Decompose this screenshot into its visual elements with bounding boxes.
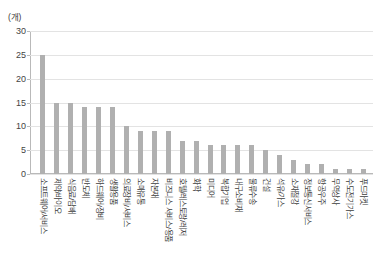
bar-slot — [217, 31, 231, 174]
bar-slot — [133, 31, 147, 174]
x-label-slot: 항공우주 — [314, 176, 328, 271]
bar-slot — [120, 31, 134, 174]
y-axis-unit-label: (개) — [8, 10, 21, 22]
x-tick-label: 항공우주 — [317, 178, 325, 205]
bar-slot — [92, 31, 106, 174]
x-tick-label: 반도체 — [81, 178, 89, 198]
x-tick-label: 복합기업 — [220, 178, 228, 205]
x-label-slot: 소재철강 — [287, 176, 301, 271]
bar-chart: (개) 051015202530 소프트웨어/서비스제약/바이오식음료/담배반도… — [0, 0, 379, 271]
gridline — [30, 174, 373, 175]
x-label-slot: 자본재 — [147, 176, 161, 271]
bar — [277, 155, 282, 174]
x-tick-label: 소재철강 — [290, 178, 298, 205]
y-tick-mark — [27, 174, 30, 175]
x-label-slot: 식음료/담배 — [64, 176, 78, 271]
bar-slot — [175, 31, 189, 174]
y-tick-label: 10 — [16, 122, 26, 131]
bar — [110, 107, 115, 174]
x-label-slot: 화학 — [189, 176, 203, 271]
bar-series — [30, 31, 373, 174]
bar-slot — [203, 31, 217, 174]
bar — [40, 55, 45, 174]
bar-slot — [231, 31, 245, 174]
x-tick-label: 미디어 — [206, 178, 214, 198]
x-label-slot: 푸드마켓 — [356, 176, 370, 271]
x-label-slot: 하드웨어/장비 — [92, 176, 106, 271]
bar-slot — [342, 31, 356, 174]
bar — [124, 126, 129, 174]
bar-slot — [64, 31, 78, 174]
x-tick-label: 의료장비/서비스 — [122, 178, 130, 227]
x-tick-label: 물류수송 — [248, 178, 256, 205]
bar — [305, 164, 310, 174]
bar-slot — [314, 31, 328, 174]
bar — [166, 131, 171, 174]
bar-slot — [161, 31, 175, 174]
bar-slot — [356, 31, 370, 174]
x-tick-label: 비즈니스 서비스/용품 — [164, 178, 172, 242]
bar — [361, 169, 366, 174]
x-tick-label: 자본재 — [150, 178, 158, 198]
x-tick-label: 화학 — [192, 178, 200, 191]
x-tick-label: 석유/가스 — [276, 178, 284, 207]
x-tick-label: 건설 — [262, 178, 270, 191]
bar — [138, 131, 143, 174]
bar-slot — [50, 31, 64, 174]
x-label-slot: 소매유통 — [133, 176, 147, 271]
x-axis-labels: 소프트웨어/서비스제약/바이오식음료/담배반도체하드웨어/장비생활용품의료장비/… — [30, 176, 373, 271]
x-label-slot: 소프트웨어/서비스 — [36, 176, 50, 271]
bar — [208, 145, 213, 174]
x-label-slot: 제약/바이오 — [50, 176, 64, 271]
bar — [54, 103, 59, 175]
x-label-slot: 미디어 — [203, 176, 217, 271]
x-label-slot: 생활용품 — [106, 176, 120, 271]
x-label-slot: 수도전기가스 — [342, 176, 356, 271]
bar — [291, 160, 296, 174]
x-tick-label: 호텔/레스토랑/레저 — [178, 178, 186, 235]
bar — [235, 145, 240, 174]
x-label-slot: 건설 — [259, 176, 273, 271]
x-tick-label: 소매유통 — [136, 178, 144, 205]
x-tick-label: 제약/바이오 — [53, 178, 61, 213]
bar-slot — [328, 31, 342, 174]
bar — [194, 141, 199, 174]
x-tick-label: 식음료/담배 — [67, 178, 75, 213]
bar — [152, 131, 157, 174]
y-tick-label: 5 — [21, 146, 26, 155]
bar — [68, 103, 73, 175]
bar — [333, 169, 338, 174]
x-tick-label: 하드웨어/장비 — [95, 178, 103, 220]
y-tick-label: 30 — [16, 27, 26, 36]
x-tick-label: 생활용품 — [109, 178, 117, 205]
bar — [263, 150, 268, 174]
bar-slot — [78, 31, 92, 174]
x-label-slot: 비즈니스 서비스/용품 — [161, 176, 175, 271]
x-tick-label: 내구소비재 — [234, 178, 242, 212]
x-label-slot: 내구소비재 — [231, 176, 245, 271]
y-tick-label: 15 — [16, 98, 26, 107]
bar-slot — [189, 31, 203, 174]
bar — [82, 107, 87, 174]
y-tick-label: 0 — [21, 170, 26, 179]
x-tick-label: 소프트웨어/서비스 — [39, 178, 47, 234]
bar — [180, 141, 185, 174]
x-label-slot: 물류수송 — [245, 176, 259, 271]
bar — [221, 145, 226, 174]
x-label-slot: 정보통신서비스 — [301, 176, 315, 271]
x-label-slot: 복합기업 — [217, 176, 231, 271]
x-label-slot: 의료장비/서비스 — [120, 176, 134, 271]
x-tick-label: 무역상사 — [331, 178, 339, 205]
bar-slot — [273, 31, 287, 174]
bar-slot — [259, 31, 273, 174]
bar-slot — [245, 31, 259, 174]
bar — [347, 169, 352, 174]
y-tick-label: 25 — [16, 50, 26, 59]
x-tick-label: 정보통신서비스 — [303, 178, 311, 225]
plot-area: 051015202530 — [30, 31, 373, 174]
bar — [319, 164, 324, 174]
bar-slot — [147, 31, 161, 174]
x-label-slot: 반도체 — [78, 176, 92, 271]
bar-slot — [36, 31, 50, 174]
bar — [249, 145, 254, 174]
